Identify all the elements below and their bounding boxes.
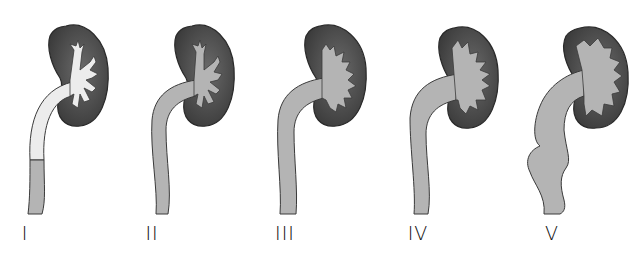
grade-label-2: II bbox=[145, 222, 158, 244]
kidney-grade-3 bbox=[278, 25, 367, 214]
kidney-grade-2 bbox=[152, 25, 235, 214]
ureter bbox=[278, 78, 324, 214]
kidney-grade-5 bbox=[528, 27, 629, 214]
kidney-grade-1 bbox=[28, 25, 108, 214]
grade-label-1: I bbox=[22, 222, 29, 244]
grade-label-4: IV bbox=[408, 222, 429, 244]
grade-label-3: III bbox=[275, 222, 295, 244]
grade-label-5: V bbox=[545, 222, 559, 244]
kidney-grade-4 bbox=[410, 27, 498, 214]
ureter bbox=[410, 74, 458, 214]
ureter-lower bbox=[28, 160, 45, 214]
reflux-grades-diagram bbox=[0, 0, 640, 255]
ureter-tortuous bbox=[528, 70, 584, 214]
